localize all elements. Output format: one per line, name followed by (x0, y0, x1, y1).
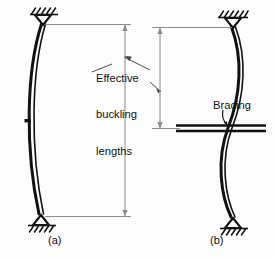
support-top-a (30, 8, 58, 25)
dimension-a-arrowhead-bottom (122, 210, 127, 217)
annotation-bracing-label: Bracing (213, 99, 251, 111)
annotation-effective-buckling-lengths: Effective buckling lengths (96, 48, 139, 181)
dimension-b-arrowhead-bottom (157, 122, 162, 129)
dimension-b-arrowhead-top (157, 28, 162, 35)
support-top-b (218, 11, 248, 28)
caption-panel-b: (b) (210, 235, 223, 247)
support-bottom-a (28, 215, 56, 232)
dimension-a-arrowhead-top (122, 25, 127, 32)
dimension-b (152, 28, 232, 129)
support-bottom-a-hatching (30, 226, 54, 232)
support-top-a-hatching (32, 8, 56, 14)
support-bottom-b-hatching (222, 229, 246, 235)
annotation-effective-line-1: Effective (96, 72, 139, 84)
column-b-left-edge (221, 27, 239, 217)
caption-panel-a: (a) (48, 235, 61, 247)
annotation-effective-line-3: lengths (96, 145, 139, 157)
figure-canvas: Effective buckling lengths Bracing (a) (… (0, 0, 276, 260)
support-top-b-hatching (220, 11, 249, 17)
support-top-a-pin-triangle (35, 15, 51, 25)
column-a-midheight-tick (25, 119, 32, 122)
panel-b (152, 11, 266, 235)
column-b-right-edge (225, 27, 243, 217)
support-top-b-pin-triangle (225, 18, 241, 28)
support-bottom-b-pin-triangle (225, 218, 241, 228)
bracing-member-b (176, 126, 266, 132)
support-bottom-b (220, 218, 248, 235)
annotation-effective-line-2: buckling (96, 108, 139, 120)
column-a (25, 24, 46, 214)
